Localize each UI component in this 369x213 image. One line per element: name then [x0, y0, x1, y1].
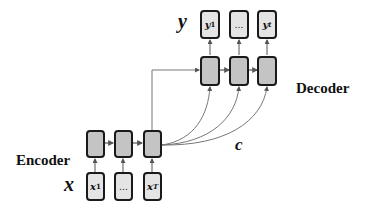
input-symbol-x: x [64, 173, 74, 196]
output-y1-sub: 1 [210, 20, 215, 29]
input-ellipsis-text: … [119, 182, 128, 192]
input-xT-sub: T [153, 182, 158, 191]
encoder-hidden-1 [86, 130, 105, 158]
output-ellipsis-text: … [235, 20, 244, 30]
context-symbol-c: c [235, 135, 243, 155]
output-yt-sub: t [268, 20, 271, 29]
input-x1-sub: 1 [96, 182, 101, 191]
output-symbol-y: y [178, 10, 187, 33]
encoder-label: Encoder [16, 152, 70, 169]
arrow-encoder-to-decoder-init [152, 70, 199, 130]
decoder-hidden-3 [257, 56, 277, 86]
decoder-hidden-1 [200, 56, 220, 86]
decoder-hidden-2 [229, 56, 249, 86]
input-x1: x1 [86, 172, 105, 201]
encoder-hidden-2 [114, 130, 133, 158]
encoder-hidden-3 [143, 130, 162, 158]
context-curve-2 [162, 87, 239, 145]
output-y1: y1 [200, 10, 220, 39]
output-yt: yt [257, 10, 277, 39]
input-xT: xT [143, 172, 162, 201]
input-ellipsis: … [114, 172, 133, 201]
output-ellipsis: … [229, 10, 249, 39]
decoder-label: Decoder [296, 80, 349, 97]
context-curve-3 [162, 87, 267, 145]
